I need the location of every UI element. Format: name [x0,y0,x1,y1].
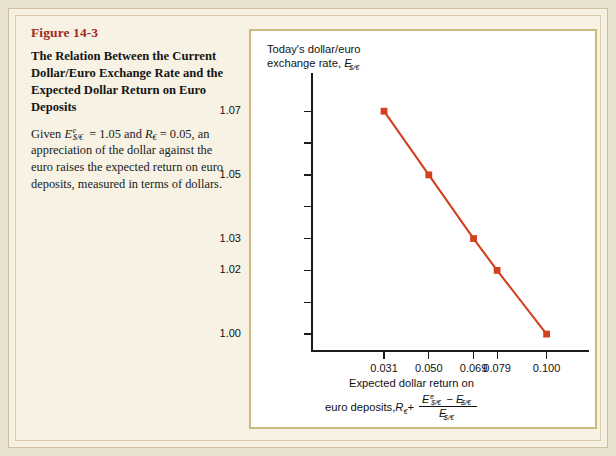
y-axis-tick [304,206,312,207]
return-fraction: Ee$/€ − E$/€ E$/€ [419,394,476,420]
numerator-minus: − [444,393,457,405]
y-axis-tick-label: 1.02 [220,263,241,275]
x-axis-plus-sign: + [407,400,414,415]
x-axis-tick [383,351,384,359]
expected-exchange-rate-symbol: Ee$/€ [64,126,86,143]
x-axis-tick [546,351,547,359]
x-axis-line [311,350,589,352]
x-axis-title: Expected dollar return on euro deposits,… [325,376,477,421]
y-axis-title-line2: exchange rate, [267,57,344,69]
x-axis-r-subscript: € [403,407,407,416]
figure-frame: Figure 14-3 The Relation Between the Cur… [8,8,608,448]
r-base: R [145,127,153,141]
den-e-subscript: $/€ [444,413,454,422]
e-subscript: $/€ [73,133,83,142]
e-base: E [64,127,72,141]
x-axis-title-line1: Expected dollar return on [325,376,477,391]
description-part-2: = 1.05 and [86,127,145,141]
y-axis-symbol: E$/€ [344,56,362,70]
figure-caption: Figure 14-3 The Relation Between the Cur… [31,25,236,193]
figure-title: The Relation Between the Current Dollar/… [31,48,236,117]
x-axis-tick [428,351,429,359]
y-axis-tick [304,174,312,175]
y-axis-tick [304,333,312,334]
figure-description: Given Ee$/€ = 1.05 and R€ = 0.05, an app… [31,126,236,194]
data-point-marker [543,331,550,338]
numerator-current-e: E$/€ [456,394,473,406]
data-point-marker [470,235,477,242]
y-axis-tick-label: 1.03 [220,232,241,244]
chart-plot-area: Today's dollar/euro exchange rate, E$/€ … [251,31,595,427]
x-axis-r-symbol: R€ [395,400,407,415]
numerator-expected-e: Ee$/€ [422,394,443,406]
x-axis-tick-label: 0.031 [370,362,398,374]
x-axis-title-prefix: euro deposits, [325,400,395,415]
y-axis-tick-label: 1.07 [220,104,241,116]
y-axis-tick [304,302,312,303]
fraction-denominator: E$/€ [419,406,476,420]
series-line [384,111,547,334]
x-axis-tick-label: 0.079 [483,362,511,374]
num-e1-base: E [422,393,429,405]
x-axis-tick-label: 0.100 [533,362,561,374]
y-axis-tick [304,270,312,271]
euro-interest-rate-symbol: R€ [145,127,157,141]
y-axis-tick [304,238,312,239]
y-axis-line [311,73,313,351]
description-part-1: Given [31,127,64,141]
x-axis-title-line2: euro deposits, R€ + Ee$/€ − E$/€ E$/€ [325,395,477,421]
y-axis-tick [304,111,312,112]
num-e1-subscript: $/€ [431,398,441,407]
fraction-numerator: Ee$/€ − E$/€ [419,394,476,407]
y-axis-tick [304,142,312,143]
y-axis-tick-label: 1.05 [220,168,241,180]
y-axis-title: Today's dollar/euro exchange rate, E$/€ [267,42,362,71]
x-axis-tick-label: 0.050 [415,362,443,374]
data-point-marker [494,267,501,274]
num-e2-subscript: $/€ [461,398,471,407]
y-axis-tick-label: 1.00 [220,327,241,339]
chart-panel: Today's dollar/euro exchange rate, E$/€ … [249,29,597,429]
r-subscript: € [153,133,157,142]
data-point-marker [381,108,388,115]
x-axis-tick [473,351,474,359]
x-axis-tick [497,351,498,359]
y-axis-title-line1: Today's dollar/euro [267,43,361,55]
figure-number: Figure 14-3 [31,25,236,41]
denominator-e: E$/€ [439,408,456,420]
data-point-marker [425,171,432,178]
y-axis-e-subscript: $/€ [349,63,359,72]
